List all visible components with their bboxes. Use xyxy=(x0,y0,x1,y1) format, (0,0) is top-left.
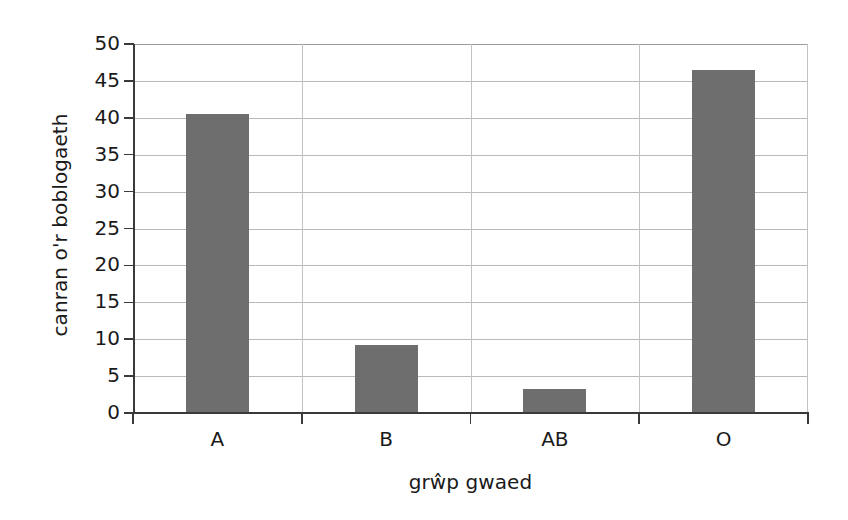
y-tick-label-wrap-0: 0 xyxy=(52,402,120,422)
y-tick-label-25: 25 xyxy=(60,218,120,238)
y-tick-label-wrap-30: 30 xyxy=(52,181,120,201)
x-tick-label-O: O xyxy=(664,427,784,451)
bar-B xyxy=(355,345,418,413)
y-tick-10 xyxy=(124,338,134,340)
y-tick-label-50: 50 xyxy=(60,33,120,53)
y-tick-label-30: 30 xyxy=(60,181,120,201)
y-tick-label-0: 0 xyxy=(60,402,120,422)
x-tick-label-B: B xyxy=(326,427,446,451)
x-tick-4 xyxy=(807,413,809,424)
y-tick-label-5: 5 xyxy=(60,365,120,385)
bar-AB xyxy=(523,389,586,413)
y-tick-40 xyxy=(124,117,134,119)
bar-A xyxy=(186,114,249,413)
gridline-x-3 xyxy=(639,44,640,413)
y-tick-5 xyxy=(124,375,134,377)
y-tick-label-wrap-25: 25 xyxy=(52,218,120,238)
x-tick-0 xyxy=(132,413,134,424)
y-tick-25 xyxy=(124,228,134,230)
gridline-x-2 xyxy=(471,44,472,413)
y-tick-label-wrap-40: 40 xyxy=(52,107,120,127)
y-tick-30 xyxy=(124,191,134,193)
y-tick-label-wrap-5: 5 xyxy=(52,365,120,385)
plot-area xyxy=(133,44,808,413)
bar-chart: canran o'r boblogaeth 051015202530354045… xyxy=(0,0,848,520)
y-tick-35 xyxy=(124,154,134,156)
y-tick-50 xyxy=(124,43,134,45)
y-tick-45 xyxy=(124,80,134,82)
x-tick-label-A: A xyxy=(157,427,277,451)
x-axis-title: grŵp gwaed xyxy=(133,470,808,494)
y-tick-label-40: 40 xyxy=(60,107,120,127)
x-tick-2 xyxy=(470,413,472,424)
y-tick-label-15: 15 xyxy=(60,291,120,311)
x-tick-label-AB: AB xyxy=(495,427,615,451)
x-tick-3 xyxy=(638,413,640,424)
y-tick-label-wrap-20: 20 xyxy=(52,254,120,274)
y-tick-label-wrap-15: 15 xyxy=(52,291,120,311)
y-tick-20 xyxy=(124,265,134,267)
x-tick-1 xyxy=(301,413,303,424)
y-tick-label-wrap-10: 10 xyxy=(52,328,120,348)
gridline-x-1 xyxy=(302,44,303,413)
y-tick-label-35: 35 xyxy=(60,144,120,164)
bar-O xyxy=(692,70,755,413)
y-tick-label-wrap-50: 50 xyxy=(52,33,120,53)
y-tick-label-wrap-45: 45 xyxy=(52,70,120,90)
plot-right-edge xyxy=(807,44,808,413)
y-tick-label-45: 45 xyxy=(60,70,120,90)
y-tick-15 xyxy=(124,302,134,304)
y-tick-label-wrap-35: 35 xyxy=(52,144,120,164)
y-tick-label-20: 20 xyxy=(60,254,120,274)
y-tick-label-10: 10 xyxy=(60,328,120,348)
